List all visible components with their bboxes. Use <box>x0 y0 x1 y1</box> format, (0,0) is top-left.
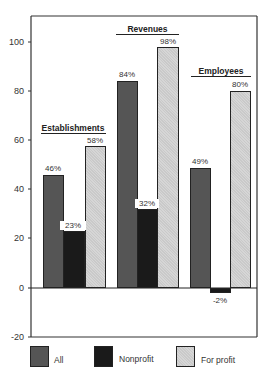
group-underline-establishments <box>41 133 106 134</box>
y-tick-100: 100 <box>2 37 24 47</box>
bar-establishments-all <box>43 175 64 288</box>
bar-revenues-forprofit <box>157 47 179 288</box>
bar-revenues-all <box>117 81 138 288</box>
legend-swatch-nonprofit <box>94 346 113 367</box>
value-label-revenues-all: 84% <box>112 70 142 79</box>
group-label-establishments: Establishments <box>40 123 106 133</box>
legend-swatch-all <box>30 346 49 367</box>
y-tick-60: 60 <box>2 135 24 145</box>
chart-figure: 100 80 60 40 20 0 -20 Establishments 46%… <box>0 0 266 372</box>
y-tick-minus20: -20 <box>2 332 24 342</box>
group-label-employees: Employees <box>190 66 252 76</box>
legend-label-all: All <box>54 355 63 365</box>
group-underline-employees <box>191 76 251 77</box>
value-label-revenues-forprofit: 98% <box>153 37 183 46</box>
legend-swatch-forprofit <box>176 346 195 367</box>
value-label-revenues-nonprofit: 32% <box>135 199 159 208</box>
bar-establishments-forprofit <box>85 146 106 288</box>
value-label-establishments-nonprofit: 23% <box>60 221 86 230</box>
y-tick-80: 80 <box>2 86 24 96</box>
bar-employees-forprofit <box>230 91 251 288</box>
y-tick-40: 40 <box>2 184 24 194</box>
group-underline-revenues <box>116 34 179 35</box>
legend-label-nonprofit: Nonprofit <box>119 354 154 364</box>
legend-label-forprofit: For profit <box>201 355 235 365</box>
bar-employees-nonprofit <box>210 288 231 293</box>
value-label-employees-nonprofit: -2% <box>205 296 235 305</box>
y-tick-0: 0 <box>2 283 24 293</box>
bar-employees-all <box>190 168 211 288</box>
value-label-establishments-forprofit: 58% <box>80 136 110 145</box>
value-label-employees-forprofit: 80% <box>225 80 255 89</box>
y-tick-20: 20 <box>2 233 24 243</box>
bar-establishments-nonprofit <box>63 231 85 288</box>
value-label-employees-all: 49% <box>185 157 215 166</box>
group-label-revenues: Revenues <box>115 24 180 34</box>
value-label-establishments-all: 46% <box>38 164 68 173</box>
bar-revenues-nonprofit <box>137 209 158 288</box>
